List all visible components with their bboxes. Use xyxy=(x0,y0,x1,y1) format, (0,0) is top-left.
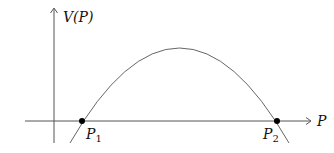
p2-label: P2 xyxy=(262,126,279,144)
point-p1 xyxy=(79,118,85,124)
y-axis-label: V(P) xyxy=(63,9,93,25)
curve-v-of-p xyxy=(70,48,289,143)
diagram: V(P) P P1 P2 xyxy=(0,0,334,153)
p1-label: P1 xyxy=(85,126,102,144)
point-p2 xyxy=(274,118,280,124)
x-axis-label: P xyxy=(316,113,327,129)
